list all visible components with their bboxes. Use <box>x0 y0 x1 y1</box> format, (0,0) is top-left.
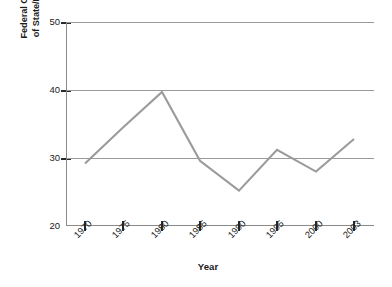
y-tick-label-40: 40 <box>34 85 60 95</box>
plot-area <box>66 22 374 226</box>
y-tick-50: 50 <box>28 17 60 27</box>
y-tick-20: 20 <box>28 221 60 231</box>
gridline-30 <box>67 158 374 159</box>
y-tick-label-50: 50 <box>34 17 60 27</box>
y-tick-label-30: 30 <box>34 153 60 163</box>
gridline-50 <box>67 22 374 23</box>
gridline-40 <box>67 90 374 91</box>
chart-figure: Federal Grants-in-Aid as Percentage of S… <box>0 0 392 287</box>
y-tick-40: 40 <box>28 85 60 95</box>
y-axis-title: Federal Grants-in-Aid as Percentage of S… <box>10 0 50 62</box>
y-tick-label-20: 20 <box>34 221 60 231</box>
x-axis-title: Year <box>0 261 392 272</box>
y-tick-30: 30 <box>28 153 60 163</box>
data-series-line <box>67 22 375 226</box>
